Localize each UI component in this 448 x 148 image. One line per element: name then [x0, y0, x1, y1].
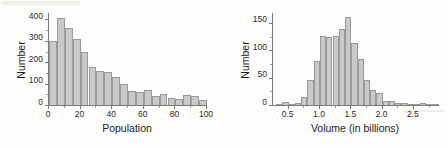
x-tick-label: 0.5	[282, 110, 294, 119]
x-tick-minor	[397, 106, 398, 108]
x-tick-label: 2.0	[376, 110, 388, 119]
x-axis-title-volume: Volume (in billions)	[311, 122, 399, 134]
y-tick-label: 200	[29, 54, 43, 63]
y-tick	[45, 105, 48, 106]
x-axis-line-volume	[272, 105, 439, 106]
y-tick-label: 0	[262, 97, 267, 106]
histogram-bar	[49, 41, 57, 105]
histogram-bar	[152, 96, 160, 105]
x-tick-label: 1.0	[313, 110, 325, 119]
x-tick-minor	[127, 106, 128, 108]
x-tick-minor	[190, 106, 191, 108]
histogram-bar	[57, 18, 65, 105]
histogram-bar	[65, 28, 73, 105]
y-tick-minor	[46, 30, 48, 31]
histogram-bar	[168, 98, 176, 105]
y-tick-label: 100	[253, 42, 267, 51]
y-axis-title-population: Number	[15, 41, 27, 78]
bar-group-population	[49, 14, 206, 105]
y-tick	[45, 41, 48, 42]
histogram-bar	[199, 100, 207, 105]
y-tick-label: 400	[29, 11, 43, 20]
x-tick-minor	[64, 106, 65, 108]
x-tick-label: 20	[75, 110, 84, 119]
x-tick-minor	[366, 106, 367, 108]
y-tick-minor	[270, 37, 272, 38]
histogram-bar	[136, 92, 144, 105]
x-tick-label: 60	[138, 110, 147, 119]
y-tick	[269, 23, 272, 24]
y-tick-label: 0	[38, 97, 43, 106]
histogram-bar	[81, 52, 89, 105]
chart-volume-histogram: 0.51.01.52.02.5 050100150 Volume (in bil…	[224, 0, 448, 148]
y-tick-label: 50	[258, 70, 267, 79]
y-tick	[269, 105, 272, 106]
histogram-bar	[128, 91, 136, 105]
y-tick	[269, 78, 272, 79]
x-tick-label: 0	[46, 110, 51, 119]
x-tick-label: 80	[170, 110, 179, 119]
y-tick-minor	[46, 73, 48, 74]
histogram-bar	[433, 104, 439, 105]
x-tick-minor	[95, 106, 96, 108]
x-tick-label: 2.5	[407, 110, 419, 119]
x-tick-minor	[159, 106, 160, 108]
plot-area-volume: 0.51.01.52.02.5 050100150 Volume (in bil…	[272, 14, 438, 106]
histogram-bar	[144, 90, 152, 105]
histogram-bar	[104, 72, 112, 105]
y-tick-minor	[46, 94, 48, 95]
histogram-bar	[160, 94, 168, 105]
y-tick	[269, 50, 272, 51]
histogram-bar	[112, 77, 120, 105]
bar-group-volume	[273, 14, 438, 105]
figure-page: 020406080100 0100200300400 Population Nu…	[0, 0, 448, 148]
histogram-bar	[120, 84, 128, 105]
x-tick-minor	[303, 106, 304, 108]
histogram-bar	[73, 39, 81, 105]
chart-population-histogram: 020406080100 0100200300400 Population Nu…	[0, 0, 224, 148]
histogram-bar	[183, 95, 191, 105]
y-tick-minor	[270, 64, 272, 65]
x-tick-label: 1.5	[344, 110, 356, 119]
histogram-bar	[89, 67, 97, 105]
y-tick-minor	[46, 52, 48, 53]
y-tick-label: 100	[29, 76, 43, 85]
x-tick-minor	[335, 106, 336, 108]
y-tick	[45, 19, 48, 20]
x-axis-title-population: Population	[102, 122, 152, 134]
y-tick-label: 300	[29, 33, 43, 42]
y-tick	[45, 84, 48, 85]
y-tick-minor	[270, 91, 272, 92]
y-tick-label: 150	[253, 15, 267, 24]
histogram-bar	[191, 96, 199, 105]
y-axis-title-volume: Number	[239, 41, 251, 78]
plot-area-population: 020406080100 0100200300400 Population Nu…	[48, 14, 206, 106]
x-tick-minor	[429, 106, 430, 108]
x-tick-label: 40	[106, 110, 115, 119]
x-tick-label: 100	[199, 110, 213, 119]
y-tick	[45, 62, 48, 63]
histogram-bar	[96, 71, 104, 105]
histogram-bar	[175, 99, 183, 105]
